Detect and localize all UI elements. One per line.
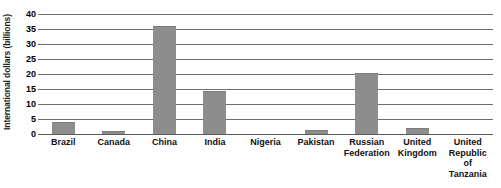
x-tick-label: China	[139, 137, 190, 148]
y-axis-tick-labels: 4035302520151050	[16, 14, 36, 134]
bar-slot	[341, 14, 392, 134]
y-tick-label: 15	[16, 85, 36, 94]
x-tick-label: Canada	[89, 137, 140, 148]
bar-slot	[240, 14, 291, 134]
y-tick-label: 25	[16, 55, 36, 64]
y-tick-label: 20	[16, 70, 36, 79]
bar	[102, 131, 125, 134]
x-tick-label: India	[190, 137, 241, 148]
x-tick-label: United Kingdom	[392, 137, 443, 158]
x-axis-tick-labels: BrazilCanadaChinaIndiaNigeriaPakistanRus…	[38, 137, 493, 188]
x-tick-label: Nigeria	[240, 137, 291, 148]
bar-slot	[38, 14, 89, 134]
y-tick-label: 40	[16, 10, 36, 19]
bar	[406, 128, 429, 134]
bar-series	[38, 14, 493, 134]
y-axis-title: International dollars (billions)	[0, 8, 14, 136]
axis-baseline	[38, 134, 493, 135]
bar-slot	[443, 14, 494, 134]
cropped-title-remnant	[0, 0, 501, 5]
bar	[52, 122, 75, 134]
y-tick-label: 35	[16, 25, 36, 34]
plot-area	[38, 14, 493, 134]
x-tick-label: United Republic of Tanzania	[443, 137, 494, 179]
bar	[355, 73, 378, 135]
bar	[305, 130, 328, 135]
x-tick-label: Russian Federation	[341, 137, 392, 158]
y-tick-label: 5	[16, 115, 36, 124]
y-axis-title-text: International dollars (billions)	[2, 14, 12, 130]
bar-chart-figure: International dollars (billions) 4035302…	[0, 0, 501, 188]
x-tick-label: Pakistan	[291, 137, 342, 148]
y-tick-label: 10	[16, 100, 36, 109]
bar-slot	[392, 14, 443, 134]
bar-slot	[139, 14, 190, 134]
bar-slot	[89, 14, 140, 134]
y-tick-label: 30	[16, 40, 36, 49]
bar	[153, 26, 176, 134]
bar-slot	[291, 14, 342, 134]
bar	[203, 91, 226, 135]
y-tick-label: 0	[16, 130, 36, 139]
bar-slot	[190, 14, 241, 134]
x-tick-label: Brazil	[38, 137, 89, 148]
